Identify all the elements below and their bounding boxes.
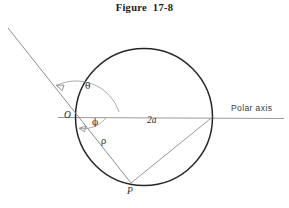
label-phi: ϕ (92, 117, 98, 127)
label-diameter-2a: 2a (147, 115, 157, 125)
chord-p-to-right-point (131, 117, 213, 183)
ray-through-origin-to-p (8, 28, 131, 183)
label-origin-o: O (64, 110, 71, 120)
label-theta: θ (85, 81, 90, 91)
figure-page: Figure 17-8 O P θ ϕ ρ 2a Polar axis (0, 0, 289, 208)
label-point-p: P (127, 186, 133, 196)
label-polar-axis: Polar axis (231, 103, 272, 113)
label-rho: ρ (101, 136, 106, 146)
